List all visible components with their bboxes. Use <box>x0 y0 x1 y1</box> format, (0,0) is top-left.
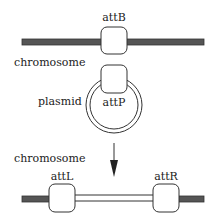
arrow-down-icon <box>110 143 118 177</box>
attP-site <box>101 65 127 93</box>
top-chromosome-label: chromosome <box>14 56 85 69</box>
bottom-chromosome-label: chromosome <box>14 152 85 165</box>
attR-label: attR <box>154 170 178 183</box>
plasmid-label: plasmid <box>38 95 82 108</box>
attL-site <box>49 184 75 212</box>
attL-label: attL <box>51 170 74 183</box>
attP-label: attP <box>103 96 126 109</box>
attB-site <box>101 27 127 54</box>
attR-site <box>153 184 179 212</box>
attB-label: attB <box>102 11 125 24</box>
recombination-diagram: attB chromosome attP plasmid chromosome <box>0 0 215 223</box>
